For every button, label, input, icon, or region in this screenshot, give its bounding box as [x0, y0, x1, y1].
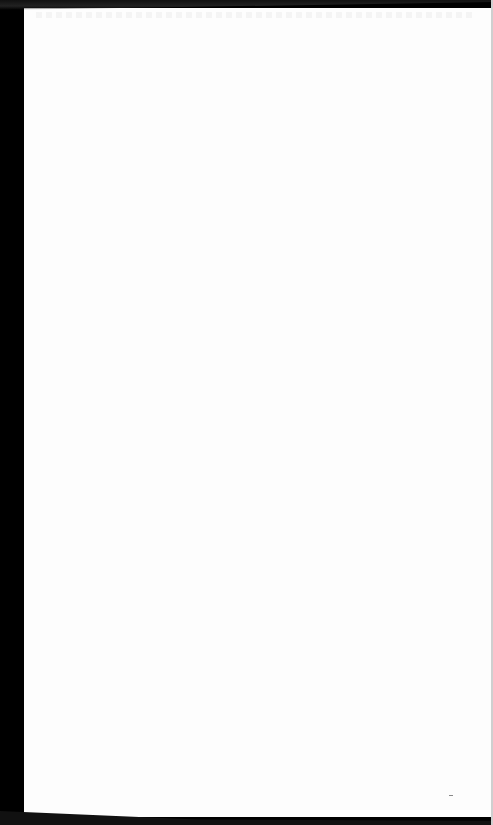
bleed-through-text [36, 12, 476, 18]
dust-speck [449, 795, 453, 796]
blank-page [24, 8, 493, 817]
